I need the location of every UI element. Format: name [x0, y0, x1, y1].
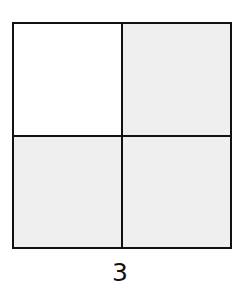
figure-label: 3	[0, 258, 240, 288]
fraction-grid	[12, 22, 232, 249]
horizontal-divider	[14, 135, 230, 137]
grid-cell-bottom-left	[14, 137, 121, 247]
grid-cell-top-right	[123, 24, 230, 135]
grid-cell-bottom-right	[123, 137, 230, 247]
grid-cell-top-left	[14, 24, 121, 135]
